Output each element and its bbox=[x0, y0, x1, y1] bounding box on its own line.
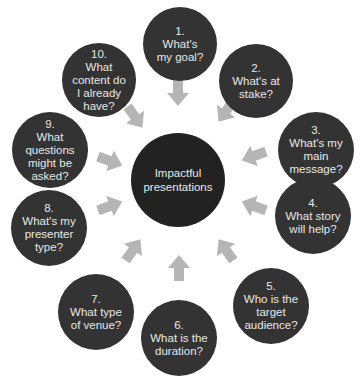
node-9: 9.What questions might be asked? bbox=[12, 112, 88, 188]
center-label: Impactful presentations bbox=[137, 166, 219, 194]
arrow-7-icon bbox=[117, 233, 150, 267]
node-number: 10. bbox=[72, 48, 126, 61]
node-number: 5. bbox=[243, 280, 299, 293]
node-6: 6.What is the duration? bbox=[141, 300, 217, 376]
node-2: 2.What's at stake? bbox=[219, 44, 293, 118]
node-4: 4.What story will help? bbox=[275, 178, 351, 254]
node-question: What's my goal? bbox=[154, 38, 206, 64]
arrow-8-icon bbox=[94, 191, 126, 221]
node-number: 3. bbox=[286, 124, 346, 137]
node-question: What's my main message? bbox=[286, 137, 346, 176]
arrow-6-icon bbox=[168, 255, 190, 281]
node-number: 6. bbox=[150, 319, 208, 332]
arrow-9-icon bbox=[94, 146, 126, 176]
node-question: What questions might be asked? bbox=[21, 131, 79, 183]
node-question: What story will help? bbox=[283, 210, 343, 236]
node-question: What's my presenter type? bbox=[19, 215, 79, 254]
center-node: Impactful presentations bbox=[131, 133, 225, 227]
node-question: What is the duration? bbox=[150, 332, 208, 358]
node-number: 8. bbox=[19, 202, 79, 215]
node-question: What type of venue? bbox=[66, 306, 126, 332]
arrow-1-icon bbox=[167, 80, 189, 106]
node-question: What content do I already have? bbox=[72, 61, 126, 113]
node-number: 7. bbox=[66, 293, 126, 306]
node-number: 4. bbox=[283, 197, 343, 210]
arrow-5-icon bbox=[210, 233, 243, 267]
node-3: 3.What's my main message? bbox=[278, 112, 354, 188]
node-7: 7.What type of venue? bbox=[58, 274, 134, 350]
node-1: 1.What's my goal? bbox=[143, 7, 217, 81]
node-number: 9. bbox=[21, 118, 79, 131]
node-5: 5.Who is the target audience? bbox=[233, 268, 309, 344]
node-number: 2. bbox=[228, 62, 284, 75]
node-8: 8.What's my presenter type? bbox=[11, 190, 87, 266]
arrow-3-icon bbox=[238, 141, 270, 171]
node-number: 1. bbox=[154, 25, 206, 38]
node-question: Who is the target audience? bbox=[243, 293, 299, 332]
node-10: 10.What content do I already have? bbox=[62, 43, 136, 117]
node-question: What's at stake? bbox=[228, 75, 284, 101]
arrow-4-icon bbox=[238, 191, 270, 221]
